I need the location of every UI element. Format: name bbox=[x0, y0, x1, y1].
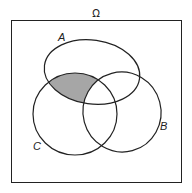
venn-diagram: Ω A B C bbox=[0, 0, 192, 193]
set-b-label: B bbox=[160, 120, 167, 132]
set-c-label: C bbox=[33, 140, 41, 152]
set-a-label: A bbox=[57, 31, 65, 43]
universe-label: Ω bbox=[92, 8, 100, 19]
